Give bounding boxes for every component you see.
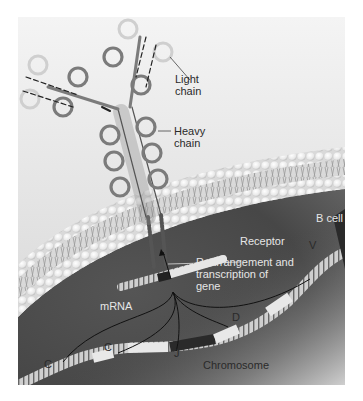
rearrangement-label: Rearrangement and transcription of gene [196, 256, 294, 292]
b-cell-receptor-diagram: Light chain Heavy chain Receptor B cell … [18, 17, 345, 385]
segment-j-label: J [174, 347, 180, 359]
rearrangement-label-line3: gene [196, 280, 294, 292]
segment-c2-label: C [104, 341, 112, 353]
segment-c1-label: C [44, 358, 52, 370]
chromosome-label: Chromosome [203, 359, 269, 371]
rearrangement-label-line2: transcription of [196, 268, 294, 280]
segment-v-label: V [309, 239, 316, 251]
segment-d-label: D [232, 311, 240, 323]
light-chain-label-line1: Light [175, 73, 201, 85]
heavy-chain-label-line1: Heavy [174, 125, 205, 137]
receptor-label: Receptor [240, 235, 285, 247]
light-chain-label-line2: chain [175, 85, 201, 97]
heavy-chain-label: Heavy chain [174, 125, 205, 149]
mrna-label: mRNA [100, 300, 132, 312]
rearrangement-label-line1: Rearrangement and [196, 256, 294, 268]
b-cell-label: B cell [316, 212, 343, 224]
light-chain-label: Light chain [175, 73, 201, 97]
heavy-chain-label-line2: chain [174, 137, 205, 149]
